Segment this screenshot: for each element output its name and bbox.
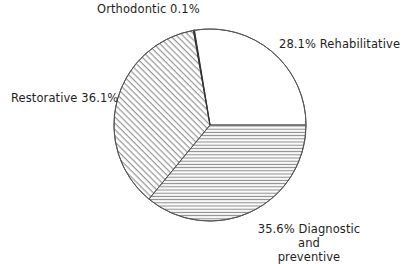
label-restorative: Restorative 36.1%: [11, 91, 118, 105]
label-diagnostic-line2: preventive: [246, 250, 372, 264]
label-diagnostic-preventive: 35.6% Diagnostic and preventive: [246, 222, 372, 264]
label-rehabilitative: 28.1% Rehabilitative: [279, 37, 400, 51]
label-diagnostic-line1: 35.6% Diagnostic and: [246, 222, 372, 250]
label-orthodontic: Orthodontic 0.1%: [97, 2, 200, 16]
